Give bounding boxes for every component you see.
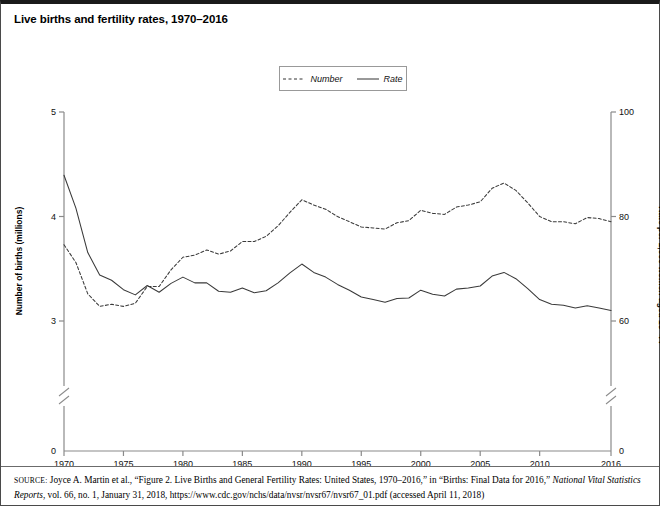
plot-area: 5430100806001970197519801985199019952000… (1, 4, 660, 470)
svg-text:1995: 1995 (351, 459, 371, 469)
svg-text:1980: 1980 (173, 459, 193, 469)
svg-text:100: 100 (619, 107, 634, 117)
svg-text:1990: 1990 (292, 459, 312, 469)
series-line-number (64, 183, 611, 306)
source-text-2: , vol. 66, no. 1, January 31, 2018, http… (43, 490, 484, 500)
svg-text:0: 0 (619, 446, 624, 456)
svg-text:2010: 2010 (530, 459, 550, 469)
svg-text:5: 5 (51, 107, 56, 117)
svg-text:2016: 2016 (601, 459, 621, 469)
source-text-1: Joyce A. Martin et al., “Figure 2. Live … (47, 475, 552, 485)
svg-text:60: 60 (619, 316, 629, 326)
source-label: SOURCE: (14, 476, 47, 485)
svg-text:1970: 1970 (54, 459, 74, 469)
svg-text:1975: 1975 (113, 459, 133, 469)
svg-text:80: 80 (619, 212, 629, 222)
svg-text:4: 4 (51, 212, 56, 222)
source-divider (1, 466, 659, 467)
svg-text:2000: 2000 (411, 459, 431, 469)
svg-text:1985: 1985 (232, 459, 252, 469)
figure-container: Live births and fertility rates, 1970–20… (0, 0, 660, 506)
svg-text:3: 3 (51, 316, 56, 326)
tick-labels-group: 5430100806001970197519801985199019952000… (51, 107, 634, 469)
chart-svg: 5430100806001970197519801985199019952000… (1, 4, 660, 470)
series-line-rate (64, 175, 611, 310)
svg-text:0: 0 (51, 446, 56, 456)
svg-text:2005: 2005 (470, 459, 490, 469)
y-axis-left-title: Number of births (millions) (14, 191, 24, 331)
source-note: SOURCE: Joyce A. Martin et al., “Figure … (14, 473, 648, 502)
series-group (64, 175, 611, 310)
